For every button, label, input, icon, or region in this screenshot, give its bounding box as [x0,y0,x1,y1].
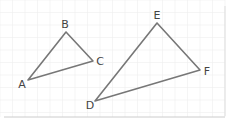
vertex-label-e: E [154,9,161,22]
grid-background [0,0,225,117]
vertex-label-b: B [61,18,69,31]
triangle-diagram: ABCDEF [0,0,235,124]
triangle-def [95,23,200,101]
vertex-label-d: D [86,99,94,112]
vertex-label-c: C [96,55,104,68]
vertex-label-f: F [204,65,210,78]
vertex-label-a: A [18,78,26,91]
